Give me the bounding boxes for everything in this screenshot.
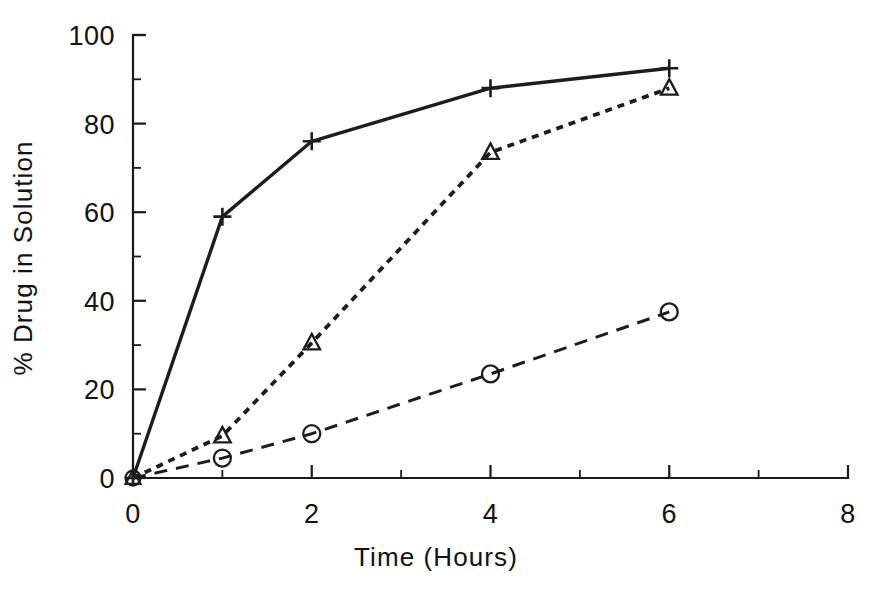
axis-ticks [133, 35, 848, 478]
series-line-triangle [133, 88, 669, 478]
data-point-marker [660, 59, 678, 77]
y-axis-title: % Drug in Solution [8, 140, 38, 375]
dissolution-profile-chart: 02040608010002468 Time (Hours) % Drug in… [0, 0, 872, 601]
y-axis-tick-label: 20 [84, 375, 115, 405]
axis-spine [133, 35, 848, 478]
y-axis-tick-label: 80 [84, 110, 115, 140]
chart-axes [133, 35, 848, 478]
x-axis-tick-label: 8 [840, 499, 856, 529]
series-line-circle [133, 312, 669, 478]
data-point-marker [482, 79, 500, 97]
x-axis-tick-label: 6 [661, 499, 677, 529]
chart-figure: 02040608010002468 Time (Hours) % Drug in… [0, 0, 872, 601]
series-plus [133, 59, 678, 478]
x-axis-title: Time (Hours) [354, 542, 518, 572]
y-axis-tick-label: 60 [84, 198, 115, 228]
origin-marker-cluster [125, 470, 141, 486]
x-axis-tick-label: 0 [125, 499, 141, 529]
data-point-marker [661, 79, 678, 94]
series-circle [133, 303, 678, 478]
x-axis-tick-label: 2 [304, 499, 320, 529]
y-axis-tick-label: 0 [99, 464, 115, 494]
data-point-marker [482, 365, 499, 382]
series-line-plus [133, 68, 669, 478]
data-series-group [125, 59, 678, 486]
y-axis-tick-label: 40 [84, 287, 115, 317]
y-axis-tick-label: 100 [68, 21, 115, 51]
x-axis-tick-label: 4 [483, 499, 499, 529]
series-triangle [133, 79, 678, 478]
